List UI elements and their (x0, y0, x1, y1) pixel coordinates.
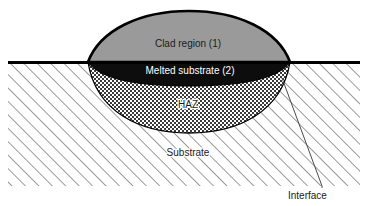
haz-label: HAZ (178, 99, 198, 110)
clad-region-label: Clad region (1) (155, 38, 221, 49)
melted-substrate-label: Melted substrate (2) (146, 65, 235, 76)
clad-dome-shape (88, 11, 290, 62)
clad-region (88, 11, 290, 62)
cladding-cross-section-diagram: Clad region (1) Melted substrate (2) HAZ… (0, 0, 369, 206)
interface-label: Interface (288, 190, 327, 201)
substrate-label: Substrate (167, 147, 210, 158)
diagram-root: Clad region (1) Melted substrate (2) HAZ… (0, 0, 369, 206)
